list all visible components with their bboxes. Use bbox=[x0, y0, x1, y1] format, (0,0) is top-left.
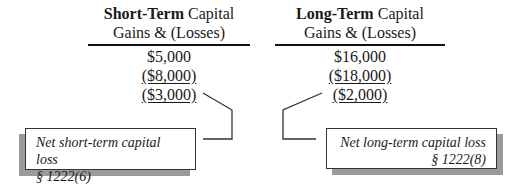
net-short-term-section: § 1222(6) bbox=[36, 168, 185, 184]
net-long-term-section: § 1222(8) bbox=[337, 151, 486, 168]
long-term-connector bbox=[283, 93, 322, 139]
short-term-connector bbox=[203, 93, 232, 139]
net-long-term-label: Net long-term capital loss bbox=[337, 134, 486, 151]
net-short-term-callout: Net short-term capital loss § 1222(6) bbox=[25, 128, 196, 170]
net-long-term-callout: Net long-term capital loss § 1222(8) bbox=[326, 128, 497, 169]
net-short-term-label: Net short-term capital loss bbox=[36, 134, 185, 168]
